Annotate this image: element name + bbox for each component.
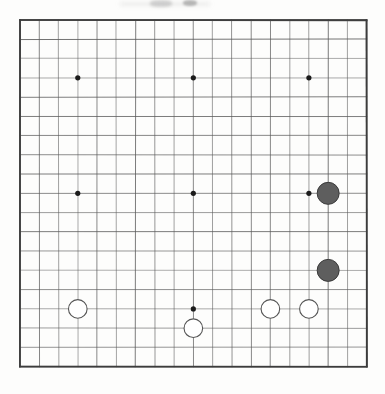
star-point [191,75,196,80]
star-point [75,191,80,196]
white-stone[interactable] [68,300,87,319]
scan-artifact-streak [120,2,210,6]
page-root: Go board position diagram 19x19 goban 2 … [0,0,385,394]
star-point [306,75,311,80]
go-board-canvas[interactable] [12,12,374,376]
black-stone[interactable] [317,259,339,281]
star-point [191,191,196,196]
white-stone[interactable] [184,319,203,338]
star-point [75,75,80,80]
scan-artifact-smudge [150,0,172,7]
go-board[interactable] [12,12,374,376]
star-point [306,191,311,196]
star-point [191,306,196,311]
white-stone[interactable] [300,300,319,319]
white-stone[interactable] [261,300,280,319]
scan-artifact-smudge [183,0,197,6]
black-stone[interactable] [317,182,339,204]
stones-layer[interactable] [68,182,339,337]
